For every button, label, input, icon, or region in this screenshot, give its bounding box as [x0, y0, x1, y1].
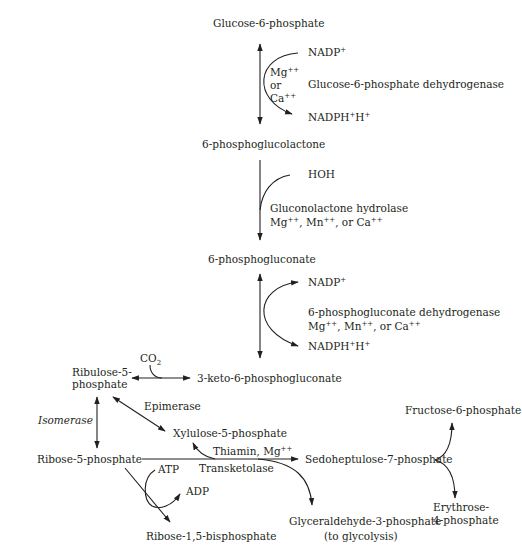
arrow-r5p-to-rbp	[125, 468, 170, 522]
text-or: or	[270, 79, 282, 91]
enzyme-transketolase: Transketolase	[199, 462, 274, 474]
ions-step3: Mg++, Mn++, or Ca++	[308, 320, 421, 332]
node-glucose-6-phosphate: Glucose-6-phosphate	[213, 17, 324, 29]
ion-mg: Mg++	[270, 66, 299, 78]
node-fructose-6-phosphate: Fructose-6-phosphate	[405, 404, 521, 416]
node-ribulose-5-phosphate-line2: phosphate	[72, 378, 127, 390]
node-xylulose-5-phosphate: Xylulose-5-phosphate	[173, 427, 287, 439]
cofactor-atp: ATP	[157, 463, 179, 475]
cofactor-nadp-2: NADP+	[308, 276, 346, 288]
arrow-nadp-curve-2	[264, 282, 298, 346]
cofactor-nadph: NADPH+H+	[308, 111, 370, 123]
node-6-phosphogluconate: 6-phosphogluconate	[208, 253, 316, 265]
enzyme-g6pd: Glucose-6-phosphate dehydrogenase	[308, 78, 504, 90]
enzyme-6pgd: 6-phosphogluconate dehydrogenase	[308, 306, 500, 318]
node-erythrose-4-phosphate-line1: Erythrose-	[433, 501, 490, 513]
ions-step2: Mg++, Mn++, or Ca++	[270, 216, 383, 228]
node-3-keto-6-phosphogluconate: 3-keto-6-phosphogluconate	[197, 372, 342, 384]
node-glyceraldehyde-3-phosphate: Glyceraldehyde-3-phosphate	[289, 515, 441, 527]
cofactor-nadp: NADP+	[308, 46, 346, 58]
node-ribose-1-5-bisphosphate: Ribose-1,5-bisphosphate	[146, 530, 277, 542]
ion-ca: Ca++	[270, 92, 296, 104]
reactant-hoh: HOH	[308, 168, 335, 180]
node-glyceraldehyde-3-phosphate-note: (to glycolysis)	[324, 530, 398, 542]
node-ribose-5-phosphate: Ribose-5-phosphate	[37, 453, 142, 465]
label-epimerase: Epimerase	[144, 400, 201, 412]
arrow-atp-adp-curve	[145, 470, 180, 508]
node-erythrose-4-phosphate-line2: 4-phosphate	[433, 514, 499, 526]
cofactor-thiamin: Thiamin, Mg++	[213, 445, 292, 457]
enzyme-gluconolactone-hydrolase: Gluconolactone hydrolase	[270, 202, 408, 214]
label-isomerase: Isomerase	[37, 414, 93, 426]
arrow-to-x5p-curve	[193, 443, 215, 459]
cofactor-nadph-2: NADPH+H+	[308, 340, 370, 352]
node-ribulose-5-phosphate-line1: Ribulose-5-	[72, 366, 132, 378]
node-sedoheptulose-7-phosphate: Sedoheptulose-7-phosphate	[305, 453, 453, 465]
pentose-phosphate-pathway-diagram: Glucose-6-phosphate NADP+ Mg++ or Ca++ G…	[0, 0, 522, 551]
co2: CO2	[140, 352, 161, 367]
arrow-to-e4p-curve	[435, 460, 455, 498]
node-6-phosphoglucolactone: 6-phosphoglucolactone	[202, 138, 325, 150]
cofactor-adp: ADP	[185, 485, 209, 497]
